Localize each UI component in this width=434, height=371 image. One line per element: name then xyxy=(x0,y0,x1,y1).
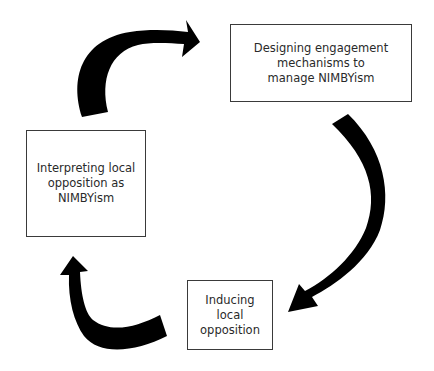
arrow-interpret-to-design xyxy=(77,20,200,117)
node-label: Designing engagement mechanisms to manag… xyxy=(254,41,388,86)
arrow-induce-to-interpret xyxy=(60,256,167,350)
node-label: Inducing local opposition xyxy=(200,293,260,338)
node-interpreting-local-opposition: Interpreting local opposition as NIMBYis… xyxy=(26,130,146,237)
node-designing-engagement-mechanisms: Designing engagement mechanisms to manag… xyxy=(230,24,412,102)
arrow-design-to-induce xyxy=(288,114,385,312)
node-label: Interpreting local opposition as NIMBYis… xyxy=(37,161,136,206)
node-inducing-local-opposition: Inducing local opposition xyxy=(187,280,273,350)
